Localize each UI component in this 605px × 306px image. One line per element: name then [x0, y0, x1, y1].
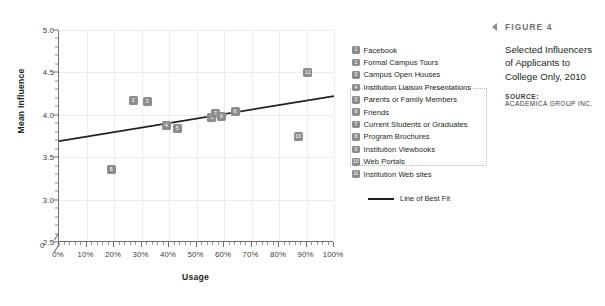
x-axis-tick-mark: [278, 242, 279, 247]
legend-item-line-of-best-fit: Line of Best Fit: [368, 194, 450, 203]
figure-number: FIGURE 4: [505, 22, 552, 32]
legend-item[interactable]: 7Current Students or Graduates: [352, 118, 484, 130]
x-axis-tick-mark: [86, 242, 87, 247]
x-axis-minor-tick: [300, 242, 301, 245]
left-triangle-icon: [492, 23, 497, 31]
y-axis-ticks: 2.53.03.54.04.55.0: [0, 30, 58, 242]
x-axis-minor-tick: [322, 242, 323, 245]
legend-item[interactable]: 10Web Portals: [352, 156, 484, 168]
figure-title: Selected Influencers of Applicants to Co…: [505, 43, 598, 83]
x-axis-minor-tick: [69, 242, 70, 245]
legend-item-label: Institution Viewbooks: [364, 145, 435, 154]
x-axis-minor-tick: [212, 242, 213, 245]
plot-inner: 1234567891011: [59, 30, 333, 241]
x-axis-minor-tick: [108, 242, 109, 245]
x-axis-tick-label: 50%: [188, 250, 204, 259]
x-axis-minor-tick: [284, 242, 285, 245]
caption-panel: FIGURE 4 Selected Influencers of Applica…: [492, 22, 598, 107]
data-point-marker[interactable]: 4: [162, 121, 171, 130]
legend-item[interactable]: 3Campus Open Houses: [352, 69, 484, 81]
figure-container: Mean Influence 2.53.03.54.04.55.0 123456…: [0, 0, 605, 306]
x-axis-minor-tick: [152, 242, 153, 245]
x-axis-minor-tick: [80, 242, 81, 245]
legend-item[interactable]: 6Friends: [352, 106, 484, 118]
x-axis-minor-tick: [245, 242, 246, 245]
x-axis-tick-label: 20%: [105, 250, 121, 259]
x-axis-tick-mark: [113, 242, 114, 247]
figure-label-row: FIGURE 4: [492, 22, 598, 32]
x-axis-minor-tick: [311, 242, 312, 245]
x-axis-minor-tick: [229, 242, 230, 245]
x-axis-minor-tick: [328, 242, 329, 245]
legend-item-label: Formal Campus Tours: [364, 58, 439, 67]
x-axis-tick-mark: [196, 242, 197, 247]
legend-item-label: Program Brochures: [364, 132, 430, 141]
legend-badge: 4: [352, 84, 360, 92]
x-axis-tick-mark: [58, 242, 59, 247]
legend-item[interactable]: 4Institution Liaison Presentations: [352, 81, 484, 93]
legend-badge: 1: [352, 46, 360, 54]
x-axis-minor-tick: [201, 242, 202, 245]
legend-item[interactable]: 11Institution Web sites: [352, 168, 484, 180]
x-axis-minor-tick: [102, 242, 103, 245]
y-axis-zero-label: 0: [40, 241, 44, 250]
source-value: ACADEMICA GROUP INC.: [505, 100, 598, 107]
x-axis-minor-tick: [163, 242, 164, 245]
x-axis-tick-label: 60%: [215, 250, 231, 259]
x-axis-minor-tick: [256, 242, 257, 245]
legend-item-label: Web Portals: [364, 157, 405, 166]
x-axis-minor-tick: [234, 242, 235, 245]
legend-item[interactable]: 1Facebook: [352, 44, 484, 56]
x-axis-tick-mark: [306, 242, 307, 247]
x-axis-minor-tick: [135, 242, 136, 245]
x-axis-tick-mark: [141, 242, 142, 247]
line-of-best-fit-swatch: [368, 198, 394, 200]
x-axis-minor-tick: [185, 242, 186, 245]
data-point-marker[interactable]: 10: [294, 132, 303, 141]
legend-item[interactable]: 5Parents or Family Members: [352, 94, 484, 106]
x-axis-minor-tick: [97, 242, 98, 245]
x-axis-minor-tick: [130, 242, 131, 245]
x-axis-minor-tick: [317, 242, 318, 245]
x-axis-tick-label: 100%: [323, 250, 343, 259]
x-axis-ticks: 0%10%20%30%40%50%60%70%80%90%100%: [58, 242, 333, 272]
x-axis-tick-mark: [223, 242, 224, 247]
x-axis-minor-tick: [289, 242, 290, 245]
legend-badge: 11: [352, 170, 360, 178]
legend-item-label: Current Students or Graduates: [364, 120, 468, 129]
x-axis-tick-label: 70%: [243, 250, 259, 259]
x-axis-tick-label: 90%: [298, 250, 314, 259]
legend-item-label: Campus Open Houses: [364, 70, 441, 79]
data-point-marker[interactable]: 5: [173, 124, 182, 133]
x-axis-minor-tick: [64, 242, 65, 245]
x-axis-tick-label: 80%: [270, 250, 286, 259]
legend-badge: 9: [352, 146, 360, 154]
legend-badge: 10: [352, 158, 360, 166]
x-axis-tick-mark: [333, 242, 334, 247]
line-of-best-fit: [59, 30, 334, 242]
legend-item-label: Institution Liaison Presentations: [364, 83, 472, 92]
legend-badge: 6: [352, 108, 360, 116]
x-axis-minor-tick: [262, 242, 263, 245]
legend-item-label: Friends: [364, 108, 389, 117]
data-point-marker[interactable]: 9: [217, 112, 226, 121]
plot-area: 1234567891011: [58, 30, 333, 242]
data-point-marker[interactable]: 3: [143, 97, 152, 106]
data-point-marker[interactable]: 6: [231, 107, 240, 116]
x-axis-minor-tick: [295, 242, 296, 245]
x-axis-tick-label: 30%: [133, 250, 149, 259]
x-axis-tick-mark: [168, 242, 169, 247]
legend-item[interactable]: 9Institution Viewbooks: [352, 143, 484, 155]
legend-badge: 3: [352, 71, 360, 79]
data-point-marker[interactable]: 11: [303, 68, 312, 77]
x-axis-tick-label: 40%: [160, 250, 176, 259]
data-point-marker[interactable]: 8: [107, 165, 116, 174]
legend-item[interactable]: 8Program Brochures: [352, 131, 484, 143]
legend-badge: 2: [352, 59, 360, 67]
x-axis-tick-mark: [251, 242, 252, 247]
data-point-marker[interactable]: 2: [129, 96, 138, 105]
legend-item[interactable]: 2Formal Campus Tours: [352, 56, 484, 68]
line-of-best-fit-label: Line of Best Fit: [400, 194, 450, 203]
x-axis-tick-label: 0%: [52, 250, 63, 259]
x-axis-tick-label: 10%: [78, 250, 94, 259]
